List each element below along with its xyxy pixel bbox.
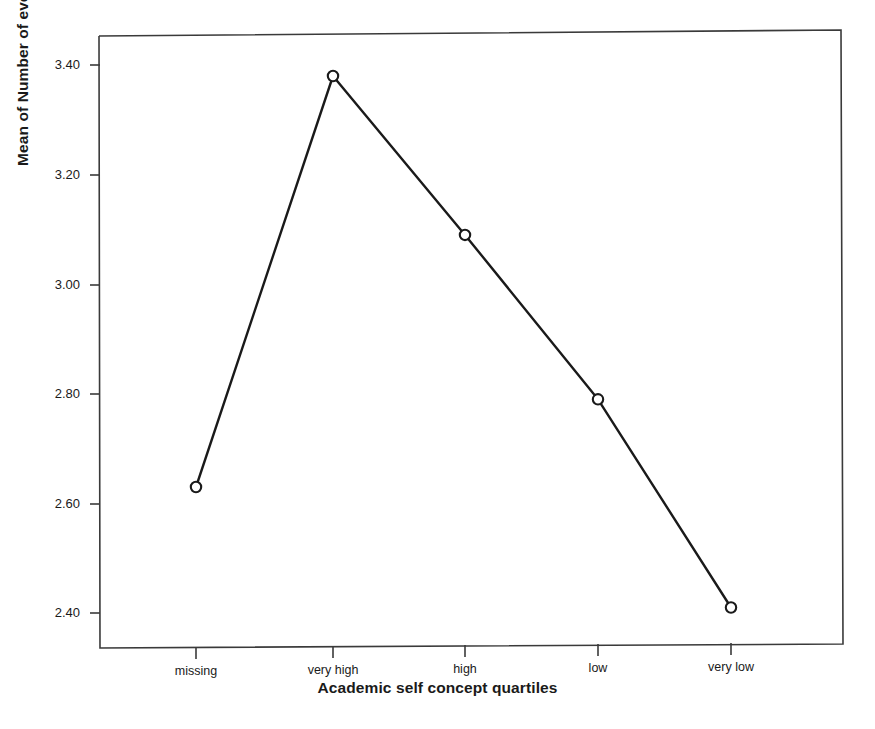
data-point-high [460,230,470,240]
x-tick-label-high: high [405,662,525,676]
y-tick-label-3-00: 3.00 [20,277,80,292]
y-tick-label-2-40: 2.40 [20,605,80,620]
x-tick-label-very-low: very low [671,660,791,674]
x-axis-title: Academic self concept quartiles [0,679,875,697]
data-point-low [593,394,603,404]
y-tick-label-3-40: 3.40 [20,57,80,72]
y-axis-title: Mean of Number of evening homework per w… [10,0,36,166]
y-tick-label-3-20: 3.20 [20,167,80,182]
x-tick-label-low: low [538,661,658,675]
data-point-very-low [726,602,736,612]
line-chart: Mean of Number of evening homework per w… [0,0,875,729]
x-tick-label-very-high: very high [273,663,393,677]
data-point-very-high [328,71,338,81]
x-tick-label-missing: missing [136,664,256,678]
y-tick-label-2-80: 2.80 [20,386,80,401]
data-point-missing [191,482,201,492]
y-tick-label-2-60: 2.60 [20,496,80,511]
chart-canvas [0,0,875,729]
data-point-markers [191,71,736,613]
data-line [196,76,731,608]
plot-frame [99,30,843,648]
